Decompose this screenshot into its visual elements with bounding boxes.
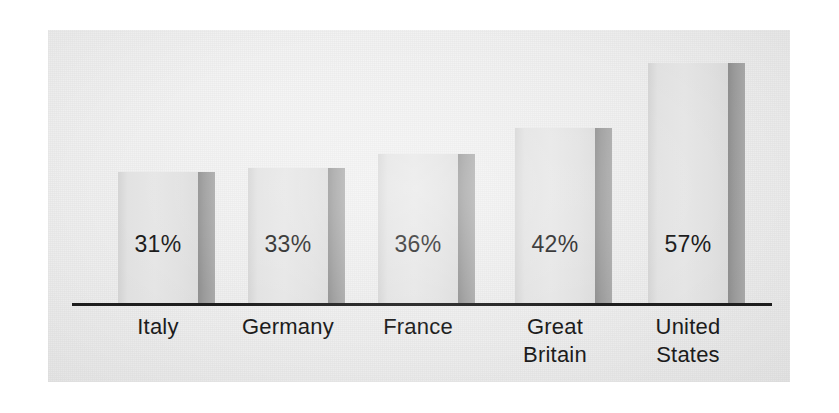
bar-shadow-great-britain bbox=[595, 128, 612, 304]
bar-germany: 33% bbox=[248, 168, 345, 304]
bar-italy: 31% bbox=[118, 172, 215, 304]
bar-shadow-germany bbox=[328, 168, 345, 304]
bar-value-united-states: 57% bbox=[648, 231, 728, 258]
bar-shadow-united-states bbox=[728, 63, 745, 304]
bar-france: 36% bbox=[378, 154, 475, 304]
bar-face-france bbox=[378, 154, 458, 304]
bar-value-italy: 31% bbox=[118, 231, 198, 258]
chart-screenshot: 31% 33% 36% bbox=[0, 0, 839, 413]
x-axis-label-italy: Italy bbox=[83, 313, 233, 341]
x-axis-label-great-britain: Great Britain bbox=[480, 313, 630, 369]
bar-group-italy[interactable]: 31% bbox=[118, 172, 215, 304]
bar-group-great-britain[interactable]: 42% bbox=[515, 128, 612, 304]
x-axis-label-france: France bbox=[343, 313, 493, 341]
bar-group-united-states[interactable]: 57% bbox=[648, 63, 745, 304]
bar-united-states: 57% bbox=[648, 63, 745, 304]
scanned-page: 31% 33% 36% bbox=[48, 30, 790, 382]
bar-value-germany: 33% bbox=[248, 231, 328, 258]
bar-shadow-italy bbox=[198, 172, 215, 304]
bar-group-france[interactable]: 36% bbox=[378, 154, 475, 304]
bar-value-great-britain: 42% bbox=[515, 231, 595, 258]
bar-face-great-britain bbox=[515, 128, 595, 304]
bar-value-france: 36% bbox=[378, 231, 458, 258]
bar-face-united-states bbox=[648, 63, 728, 304]
x-axis-label-germany: Germany bbox=[213, 313, 363, 341]
bar-shadow-france bbox=[458, 154, 475, 304]
bar-group-germany[interactable]: 33% bbox=[248, 168, 345, 304]
x-axis-baseline bbox=[72, 303, 772, 306]
bar-great-britain: 42% bbox=[515, 128, 612, 304]
bar-chart-plot-area: 31% 33% 36% bbox=[48, 30, 790, 382]
x-axis-label-united-states: United States bbox=[613, 313, 763, 369]
